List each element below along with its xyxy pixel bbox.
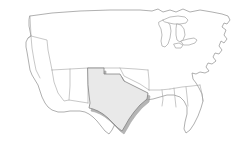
us-map-svg[interactable]: United States map with Texas highlighted — [0, 0, 245, 156]
map-figure: United States map with Texas highlighted — [0, 0, 245, 156]
